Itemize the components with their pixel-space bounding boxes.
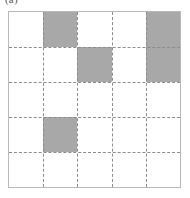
grid-cell-r2c3[interactable] (77, 47, 111, 82)
grid-cell-r4c2[interactable] (43, 117, 77, 152)
grid-cell-r1c2[interactable] (43, 12, 77, 47)
grid-cell-r3c2[interactable] (43, 82, 77, 117)
figure-container: (a) (0, 0, 190, 198)
grid-cell-r2c2[interactable] (43, 47, 77, 82)
grid-cell-r5c4[interactable] (112, 152, 146, 187)
figure-caption: (a) (5, 0, 18, 5)
grid-cell-r1c5[interactable] (146, 12, 180, 47)
grid-cell-r3c3[interactable] (77, 82, 111, 117)
grid-cell-r4c3[interactable] (77, 117, 111, 152)
grid-cell-r2c4[interactable] (112, 47, 146, 82)
grid-cell-r2c1[interactable] (9, 47, 43, 82)
grid-cell-r5c3[interactable] (77, 152, 111, 187)
grid-cell-r1c4[interactable] (112, 12, 146, 47)
grid-cell-matrix (9, 12, 180, 187)
grid-cell-r4c5[interactable] (146, 117, 180, 152)
grid-cell-r2c5[interactable] (146, 47, 180, 82)
grid-cell-r3c4[interactable] (112, 82, 146, 117)
grid-cell-r4c1[interactable] (9, 117, 43, 152)
grid-cell-r3c1[interactable] (9, 82, 43, 117)
grid-cell-r1c1[interactable] (9, 12, 43, 47)
grid-cell-r5c1[interactable] (9, 152, 43, 187)
grid-cell-r4c4[interactable] (112, 117, 146, 152)
grid-cell-r1c3[interactable] (77, 12, 111, 47)
grid-cell-r3c5[interactable] (146, 82, 180, 117)
grid-cell-r5c2[interactable] (43, 152, 77, 187)
grid-plot-area (8, 11, 181, 188)
grid-cell-r5c5[interactable] (146, 152, 180, 187)
